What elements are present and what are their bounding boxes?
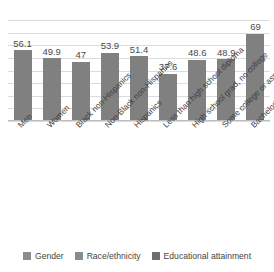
bar-value-label: 47 bbox=[75, 50, 86, 60]
bar-value-label: 48.6 bbox=[188, 48, 207, 58]
legend-swatch-icon bbox=[75, 252, 83, 260]
bar-value-label: 53.9 bbox=[101, 41, 120, 51]
legend-item[interactable]: Race/ethnicity bbox=[75, 252, 141, 261]
legend-swatch-icon bbox=[23, 252, 31, 260]
legend-label: Race/ethnicity bbox=[87, 252, 141, 261]
legend-swatch-icon bbox=[152, 252, 160, 260]
bar-value-label: 49.9 bbox=[42, 47, 61, 57]
legend-item[interactable]: Gender bbox=[23, 252, 64, 261]
chart-legend: GenderRace/ethnicityEducational attainme… bbox=[0, 246, 274, 266]
legend-label: Gender bbox=[35, 252, 64, 261]
bar-value-label: 69 bbox=[250, 22, 261, 32]
legend-label: Educational attainment bbox=[164, 252, 251, 261]
x-axis-category-labels: MenWomenBlack non-HispanicsNon-Black non… bbox=[8, 122, 270, 240]
legend-item[interactable]: Educational attainment bbox=[152, 252, 251, 261]
bar[interactable] bbox=[14, 50, 32, 121]
plot-area: 56.149.94753.951.437.648.648.969 bbox=[8, 20, 270, 121]
bar-series: 56.149.94753.951.437.648.648.969 bbox=[8, 20, 270, 121]
bar-slot: 56.1 bbox=[8, 20, 37, 121]
bar-value-label: 56.1 bbox=[13, 39, 32, 49]
bar-chart: 56.149.94753.951.437.648.648.969 MenWome… bbox=[0, 0, 274, 272]
bar-value-label: 51.4 bbox=[130, 45, 149, 55]
